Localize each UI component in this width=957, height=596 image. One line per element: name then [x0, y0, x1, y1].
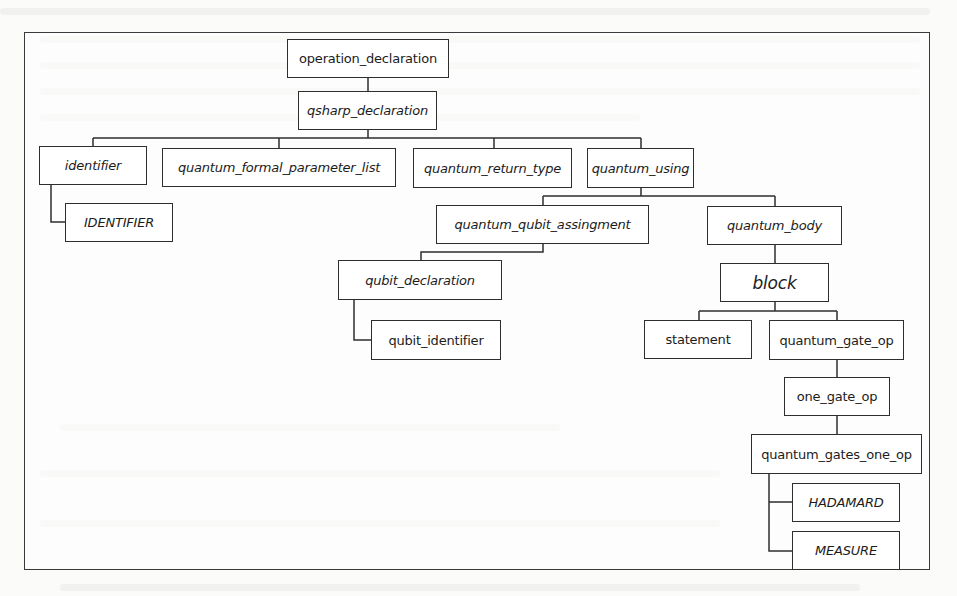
node-label: quantum_gate_op [779, 333, 893, 348]
node-quantum-return-type: quantum_return_type [413, 148, 572, 188]
node-label: quantum_return_type [424, 161, 561, 176]
node-label: quantum_body [727, 218, 822, 233]
node-quantum-using: quantum_using [587, 148, 694, 188]
node-block: block [720, 263, 829, 302]
node-quantum-gates-one-op: quantum_gates_one_op [751, 434, 922, 474]
node-quantum-body: quantum_body [707, 206, 842, 245]
node-label: qsharp_declaration [307, 103, 428, 118]
node-identifier: identifier [39, 146, 147, 185]
node-label: HADAMARD [808, 495, 883, 510]
node-label: quantum_formal_parameter_list [178, 160, 380, 175]
node-label: IDENTIFIER [84, 215, 154, 230]
node-label: quantum_qubit_assingment [455, 217, 631, 232]
node-label: statement [665, 332, 730, 347]
node-qsharp-declaration: qsharp_declaration [298, 91, 437, 130]
node-label: qubit_identifier [388, 333, 483, 348]
edge-identifier-to-IDENTIFIER [51, 185, 65, 222]
node-quantum-formal-parameter-list: quantum_formal_parameter_list [162, 148, 396, 187]
node-operation-declaration: operation_declaration [287, 39, 449, 78]
node-one-gate-op: one_gate_op [784, 377, 890, 416]
node-qubit-declaration: qubit_declaration [338, 260, 502, 300]
node-label: MEASURE [815, 543, 877, 558]
node-label: quantum_using [592, 161, 690, 176]
node-label: one_gate_op [797, 389, 878, 404]
node-label: quantum_gates_one_op [761, 447, 912, 462]
node-statement: statement [644, 320, 752, 359]
node-quantum-gate-op: quantum_gate_op [769, 320, 904, 360]
node-HADAMARD: HADAMARD [792, 483, 900, 522]
node-label: block [752, 273, 796, 293]
edge-qsharp-bus [93, 130, 641, 148]
edge-qqa-to-qubit-decl [421, 244, 543, 260]
edge-gates-one-to-leaves [769, 474, 792, 551]
edge-block-bus [699, 302, 837, 320]
node-quantum-qubit-assingment: quantum_qubit_assingment [436, 205, 649, 244]
node-label: qubit_declaration [365, 273, 475, 288]
node-label: identifier [65, 158, 121, 173]
node-IDENTIFIER: IDENTIFIER [65, 203, 173, 242]
node-qubit-identifier: qubit_identifier [371, 320, 501, 360]
node-label: operation_declaration [299, 51, 437, 66]
edge-using-bus [543, 188, 775, 206]
edge-qubit-decl-to-qubit-id [354, 300, 371, 340]
node-MEASURE: MEASURE [792, 531, 900, 570]
